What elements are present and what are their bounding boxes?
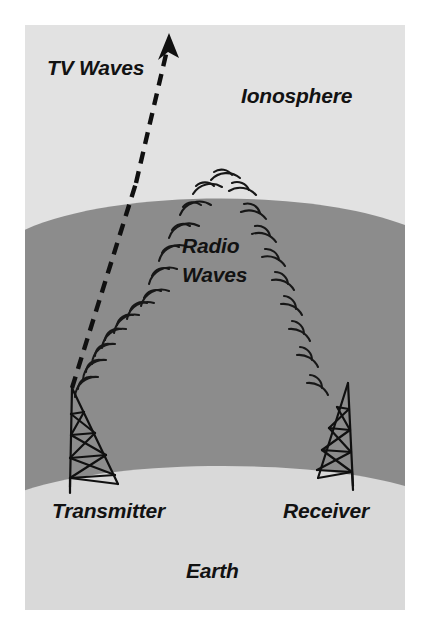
label-ionosphere: Ionosphere (241, 84, 353, 107)
label-transmitter: Transmitter (52, 499, 167, 522)
label-radio-waves-line2: Waves (182, 263, 247, 286)
label-tv-waves: TV Waves (47, 56, 144, 79)
label-radio-waves-line1: Radio (182, 234, 240, 257)
figure-root: TV Waves Ionosphere Radio Waves Transmit… (0, 0, 423, 628)
label-earth: Earth (186, 559, 239, 582)
label-receiver: Receiver (283, 499, 371, 522)
propagation-diagram: TV Waves Ionosphere Radio Waves Transmit… (0, 0, 423, 628)
